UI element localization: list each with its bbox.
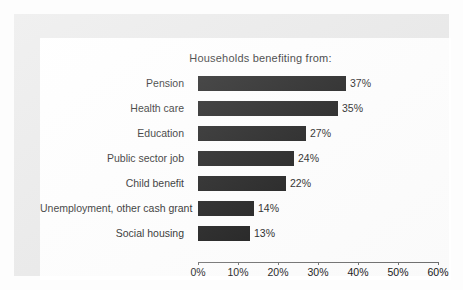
chart-canvas: Households benefiting from: Pension 37% …	[40, 38, 451, 280]
x-axis-tick-label: 0%	[180, 266, 216, 278]
x-axis-tick-label: 10%	[220, 266, 256, 278]
bar-unemployment-other-cash-grant	[198, 201, 254, 216]
category-label: Social housing	[40, 226, 191, 241]
category-label: Health care	[40, 101, 191, 116]
x-axis-tick	[198, 262, 199, 265]
category-label: Unemployment, other cash grant	[40, 201, 191, 216]
bar-value-label: 27%	[310, 126, 331, 141]
figure-page: Households benefiting from: Pension 37% …	[0, 0, 463, 290]
bar-row: Public sector job 24%	[40, 151, 451, 166]
bar-value-label: 35%	[342, 101, 363, 116]
bar-value-label: 13%	[254, 226, 275, 241]
x-axis-tick-label: 40%	[340, 266, 376, 278]
bar-pension	[198, 76, 346, 91]
x-axis-tick	[318, 262, 319, 265]
bar-chart-plot-area: Pension 37% Health care 35% Education 27…	[40, 76, 451, 280]
bar-social-housing	[198, 226, 250, 241]
category-label: Pension	[40, 76, 191, 91]
chart-title: Households benefiting from:	[40, 52, 451, 64]
bar-education	[198, 126, 306, 141]
x-axis-tick-label: 60%	[420, 266, 456, 278]
bar-row: Education 27%	[40, 126, 451, 141]
x-axis-tick	[358, 262, 359, 265]
bar-value-label: 22%	[290, 176, 311, 191]
figure-frame-border: Households benefiting from: Pension 37% …	[14, 14, 449, 276]
bar-health-care	[198, 101, 338, 116]
bar-value-label: 24%	[298, 151, 319, 166]
bar-row: Social housing 13%	[40, 226, 451, 241]
x-axis-tick-label: 20%	[260, 266, 296, 278]
x-axis-tick	[238, 262, 239, 265]
bar-public-sector-job	[198, 151, 294, 166]
x-axis-tick	[278, 262, 279, 265]
category-label: Child benefit	[40, 176, 191, 191]
x-axis-tick	[398, 262, 399, 265]
bar-child-benefit	[198, 176, 286, 191]
bar-value-label: 14%	[258, 201, 279, 216]
bar-row: Health care 35%	[40, 101, 451, 116]
bar-row: Unemployment, other cash grant 14%	[40, 201, 451, 216]
category-label: Education	[40, 126, 191, 141]
x-axis-tick	[438, 262, 439, 265]
x-axis-tick-label: 30%	[300, 266, 336, 278]
bar-row: Child benefit 22%	[40, 176, 451, 191]
bar-value-label: 37%	[350, 76, 371, 91]
category-label: Public sector job	[40, 151, 191, 166]
bar-row: Pension 37%	[40, 76, 451, 91]
x-axis-tick-label: 50%	[380, 266, 416, 278]
